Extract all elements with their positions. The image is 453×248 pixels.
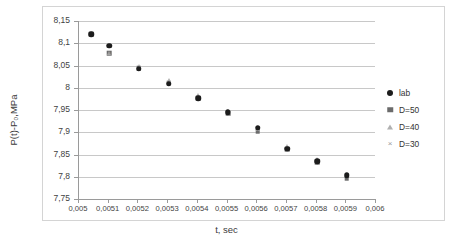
filled-circle-icon xyxy=(385,88,395,98)
data-point xyxy=(315,158,320,163)
data-point xyxy=(89,32,93,36)
data-point xyxy=(285,146,291,152)
x-axis-tick-label: 0,0057 xyxy=(274,204,297,213)
y-axis-tick xyxy=(74,88,78,89)
y-axis-tick-label: 7,95 xyxy=(53,105,70,114)
x-axis-tick-label: 0,0055 xyxy=(215,204,238,213)
data-point xyxy=(315,157,319,161)
y-axis-tick-label: 8,15 xyxy=(53,16,70,25)
x-axis-tick xyxy=(286,199,287,203)
gridline-horizontal xyxy=(78,43,375,44)
gridline-horizontal xyxy=(78,21,375,22)
data-point xyxy=(136,66,142,72)
data-point xyxy=(196,96,201,101)
y-axis-tick-label: 8,1 xyxy=(58,38,70,47)
x-axis-tick-label: 0,0054 xyxy=(185,204,208,213)
legend-item-d-50: D=50 xyxy=(385,101,443,118)
data-point xyxy=(107,51,112,56)
x-axis-tick-label: 0,0056 xyxy=(245,204,268,213)
x-axis-tick xyxy=(256,199,257,203)
data-point xyxy=(285,147,290,152)
data-point xyxy=(285,145,290,150)
filled-square-icon xyxy=(385,105,395,115)
x-axis-tick xyxy=(345,199,346,203)
x-axis-tick-label: 0,0052 xyxy=(126,204,149,213)
legend-item-d-30: ×D=30 xyxy=(385,135,443,152)
data-point xyxy=(167,78,171,82)
x-axis-tick xyxy=(316,199,317,203)
data-point xyxy=(196,93,200,97)
x-axis-tick-label: 0,005 xyxy=(68,204,87,213)
legend-item-label: D=30 xyxy=(399,139,419,149)
y-axis-line xyxy=(78,21,79,200)
x-axis-tick xyxy=(78,199,79,203)
x-axis-tick-label: 0,0059 xyxy=(334,204,357,213)
x-axis-tick-label: 0,0053 xyxy=(155,204,178,213)
x-axis-tick-label: 0,0051 xyxy=(96,204,119,213)
x-axis-tick xyxy=(375,199,376,203)
y-axis-tick xyxy=(74,43,78,44)
y-axis-tick-label: 7,9 xyxy=(58,127,70,136)
x-axis-tick-label: 0,006 xyxy=(365,204,384,213)
legend-item-d-40: D=40 xyxy=(385,118,443,135)
data-point xyxy=(166,81,171,86)
y-axis-tick xyxy=(74,110,78,111)
x-axis-tick xyxy=(167,199,168,203)
data-point xyxy=(107,51,111,55)
y-axis-tick xyxy=(74,155,78,156)
y-axis-tick-label: 7,8 xyxy=(58,172,70,181)
data-point xyxy=(166,81,172,87)
legend-item-label: D=40 xyxy=(399,122,419,132)
gridline-horizontal xyxy=(78,155,375,156)
data-point xyxy=(196,94,201,99)
y-axis-tick xyxy=(74,132,78,133)
x-axis-tick xyxy=(227,199,228,203)
x-axis-tick xyxy=(197,199,198,203)
y-axis-tick xyxy=(74,177,78,178)
y-axis-tick-label: 7,85 xyxy=(53,150,70,159)
legend-item-label: lab xyxy=(399,88,410,98)
data-point xyxy=(285,144,289,148)
x-axis-tick xyxy=(137,199,138,203)
x-axis-title: t, sec xyxy=(78,224,375,235)
plot-area xyxy=(78,21,375,199)
data-point xyxy=(137,66,142,71)
gridline-horizontal xyxy=(78,132,375,133)
y-axis-title: P(t)-P₀,MPa xyxy=(6,62,20,182)
y-axis-tick xyxy=(74,66,78,67)
gridline-horizontal xyxy=(78,110,375,111)
x-axis-tick xyxy=(108,199,109,203)
gridline-horizontal xyxy=(78,66,375,67)
x-axis-tick-label: 0,0058 xyxy=(304,204,327,213)
cross-icon: × xyxy=(385,139,395,149)
legend-item-label: D=50 xyxy=(399,105,419,115)
data-point xyxy=(314,158,320,164)
y-axis-title-text: P(t)-P₀,MPa xyxy=(8,60,19,180)
y-axis-tick-label: 8,05 xyxy=(53,61,70,70)
scatter-chart: 7,757,87,857,97,9588,058,18,15 0,0050,00… xyxy=(0,0,453,248)
data-point xyxy=(89,32,94,37)
data-point xyxy=(196,96,202,102)
y-axis-tick xyxy=(74,21,78,22)
gridline-horizontal xyxy=(78,88,375,89)
gridline-horizontal xyxy=(78,177,375,178)
triangle-icon xyxy=(385,122,395,132)
y-axis-tick-label: 8 xyxy=(65,83,70,92)
y-axis-tick-label: 7,75 xyxy=(53,194,70,203)
data-point xyxy=(89,32,95,38)
data-point xyxy=(255,125,261,131)
data-point xyxy=(89,32,94,37)
data-point xyxy=(166,79,171,84)
data-point xyxy=(315,160,320,165)
data-point xyxy=(226,111,231,116)
chart-legend: labD=50D=40×D=30 xyxy=(385,84,443,152)
data-point xyxy=(256,127,260,131)
data-point xyxy=(107,50,112,55)
legend-item-lab: lab xyxy=(385,84,443,101)
